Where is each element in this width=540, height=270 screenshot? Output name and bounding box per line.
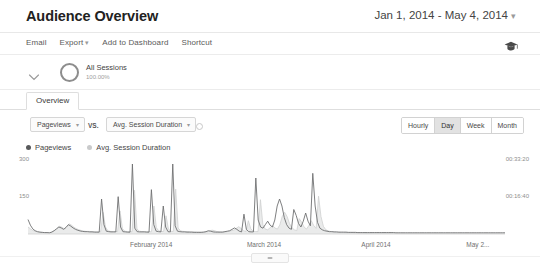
shortcut-button[interactable]: Shortcut bbox=[181, 38, 212, 47]
chart-footer bbox=[0, 256, 540, 270]
y-axis-left-tick-mid: 150 bbox=[19, 193, 29, 199]
page-title: Audience Overview bbox=[26, 8, 158, 24]
segment-donut-icon bbox=[60, 63, 79, 82]
granularity-button-group: Hourly Day Week Month bbox=[401, 117, 524, 134]
clear-metric-icon[interactable] bbox=[196, 123, 203, 130]
x-axis-tick-label: February 2014 bbox=[130, 241, 172, 248]
granularity-hourly-button[interactable]: Hourly bbox=[402, 118, 435, 133]
action-toolbar: Email Export▾ Add to Dashboard Shortcut bbox=[0, 33, 540, 55]
x-axis-tick-label: March 2014 bbox=[247, 241, 281, 248]
export-button[interactable]: Export▾ bbox=[60, 38, 90, 47]
y-axis-right-tick-top: 00:33:20 bbox=[506, 156, 529, 162]
tab-overview-label: Overview bbox=[36, 96, 69, 105]
report-tabs: Overview bbox=[0, 90, 540, 110]
chart-canvas bbox=[0, 155, 540, 240]
chevron-down-icon: ▾ bbox=[511, 11, 516, 21]
legend-item-avg-session-duration[interactable]: Avg. Session Duration bbox=[87, 143, 170, 152]
granularity-day-button[interactable]: Day bbox=[435, 118, 460, 133]
y-axis-right-tick-mid: 00:16:40 bbox=[506, 193, 529, 199]
date-range-label: Jan 1, 2014 - May 4, 2014 bbox=[374, 9, 508, 21]
granularity-week-button[interactable]: Week bbox=[461, 118, 492, 133]
legend-dot-icon bbox=[87, 145, 92, 150]
add-to-dashboard-label: Add to Dashboard bbox=[102, 38, 168, 47]
chart-legend: Pageviews Avg. Session Duration bbox=[26, 143, 170, 152]
graduation-cap-icon[interactable] bbox=[504, 38, 518, 49]
export-label: Export bbox=[60, 38, 84, 47]
secondary-metric-label: Avg. Session Duration bbox=[113, 121, 182, 128]
analytics-report-page: Audience Overview Jan 1, 2014 - May 4, 2… bbox=[0, 0, 540, 270]
secondary-metric-select[interactable]: Avg. Session Duration ▾ bbox=[106, 117, 196, 132]
legend-item-pageviews[interactable]: Pageviews bbox=[26, 143, 71, 152]
timeline-chart[interactable]: 300 150 00:33:20 00:16:40 bbox=[0, 155, 540, 240]
primary-metric-label: Pageviews bbox=[37, 121, 71, 128]
add-to-dashboard-button[interactable]: Add to Dashboard bbox=[102, 38, 168, 47]
x-axis-tick-label: May 2... bbox=[466, 241, 489, 248]
email-label: Email bbox=[26, 38, 47, 47]
vs-label: VS. bbox=[88, 122, 98, 129]
segment-item-all-sessions[interactable]: All Sessions 100.00% bbox=[86, 63, 127, 82]
chevron-down-icon[interactable] bbox=[28, 68, 40, 77]
granularity-month-button[interactable]: Month bbox=[492, 118, 523, 133]
x-axis-tick-label: April 2014 bbox=[361, 241, 390, 248]
legend-label-pageviews: Pageviews bbox=[35, 143, 71, 152]
shortcut-label: Shortcut bbox=[181, 38, 212, 47]
drag-handle-icon[interactable] bbox=[251, 253, 289, 263]
date-range-picker[interactable]: Jan 1, 2014 - May 4, 2014▾ bbox=[374, 9, 516, 21]
tab-overview[interactable]: Overview bbox=[26, 92, 79, 110]
chevron-down-icon: ▾ bbox=[76, 121, 79, 128]
chevron-down-icon: ▾ bbox=[187, 121, 190, 128]
page-header: Audience Overview Jan 1, 2014 - May 4, 2… bbox=[0, 0, 540, 33]
metric-selector-row: Pageviews ▾ VS. Avg. Session Duration ▾ … bbox=[0, 113, 540, 139]
primary-metric-select[interactable]: Pageviews ▾ bbox=[30, 117, 85, 132]
email-button[interactable]: Email bbox=[26, 38, 47, 47]
legend-label-avg-session-duration: Avg. Session Duration bbox=[96, 143, 170, 152]
y-axis-left-tick-top: 300 bbox=[19, 156, 29, 162]
x-axis-labels: February 2014March 2014April 2014May 2..… bbox=[0, 241, 540, 253]
segment-percent: 100.00% bbox=[86, 73, 127, 82]
segment-bar: All Sessions 100.00% bbox=[0, 55, 540, 90]
toolbar-items: Email Export▾ Add to Dashboard Shortcut bbox=[26, 38, 212, 47]
legend-dot-icon bbox=[26, 145, 31, 150]
chevron-down-icon: ▾ bbox=[85, 39, 89, 46]
segment-name: All Sessions bbox=[86, 63, 127, 73]
